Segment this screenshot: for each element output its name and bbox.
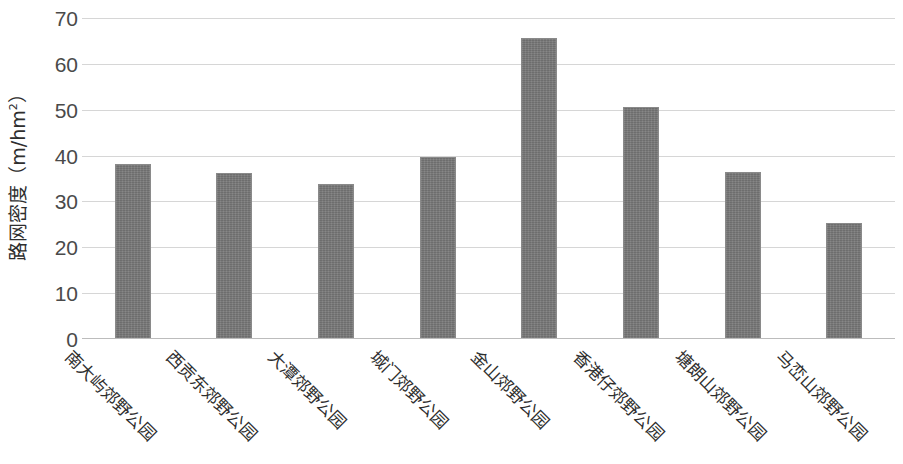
bars-layer [82, 18, 895, 339]
y-axis-tick-label: 60 [34, 54, 78, 75]
bar [725, 172, 761, 339]
x-axis-tick-label: 香港仔郊野公园 [570, 347, 667, 444]
y-axis-tick-label: 50 [34, 100, 78, 121]
bar [521, 38, 557, 339]
x-axis-tick-label: 马峦山郊野公园 [773, 347, 870, 444]
y-axis-title-exponent: 2 [7, 103, 20, 110]
y-axis-tick-label: 0 [34, 329, 78, 350]
bar [318, 184, 354, 339]
plot-area [82, 18, 895, 339]
y-axis-tick-label: 30 [34, 191, 78, 212]
x-axis-tick-label: 南大屿郊野公园 [62, 347, 159, 444]
y-axis-tick-label: 70 [34, 8, 78, 29]
bar [420, 157, 456, 339]
y-axis-tick-labels: 706050403020100 [26, 0, 78, 345]
bar [115, 164, 151, 339]
bar [623, 107, 659, 339]
y-axis-tick-label: 20 [34, 237, 78, 258]
x-axis-tick-label: 西贡东郊野公园 [164, 347, 261, 444]
x-axis-tick-label: 城门郊野公园 [367, 347, 452, 432]
bar [216, 173, 252, 339]
bar-chart: 路网密度（m/hm2） 706050403020100 南大屿郊野公园西贡东郊野… [0, 0, 903, 464]
x-axis-line [82, 338, 895, 339]
x-axis-tick-label: 大潭郊野公园 [265, 347, 350, 432]
bar [826, 223, 862, 339]
y-axis-tick-label: 40 [34, 146, 78, 167]
x-axis-tick-label: 塘朗山郊野公园 [672, 347, 769, 444]
x-axis-tick-label: 金山郊野公园 [469, 347, 554, 432]
x-axis-tick-labels: 南大屿郊野公园西贡东郊野公园大潭郊野公园城门郊野公园金山郊野公园香港仔郊野公园塘… [82, 341, 895, 464]
y-axis-tick-label: 10 [34, 283, 78, 304]
